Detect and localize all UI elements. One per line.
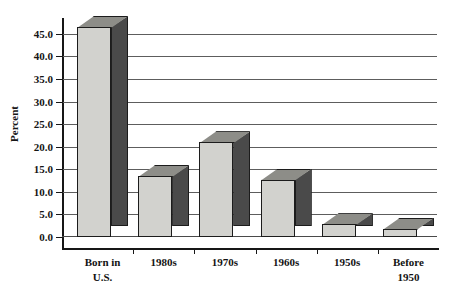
x-axis-tick: [317, 248, 318, 254]
y-axis-line: [62, 18, 64, 237]
y-axis-tick-label: 30.0: [34, 96, 53, 108]
bar: [261, 169, 312, 237]
bar-front-face: [77, 27, 111, 237]
x-axis-category-label: Born in U.S.: [72, 255, 133, 285]
bar: [199, 131, 250, 237]
bar-front-face: [138, 176, 172, 237]
y-axis-tick: [56, 192, 63, 193]
y-axis-tick-label: 0.0: [39, 231, 53, 243]
y-axis-title: Percent: [8, 84, 20, 164]
bar: [77, 16, 128, 237]
y-axis-tick-label: 35.0: [34, 73, 53, 85]
x-axis-tick: [194, 248, 195, 254]
bar: [138, 165, 189, 237]
y-axis-tick: [56, 56, 63, 57]
bar-front-face: [199, 142, 233, 237]
bar: [322, 213, 373, 237]
x-axis-category-label: 1950s: [317, 255, 378, 270]
y-axis-tick: [56, 124, 63, 125]
y-axis-tick-label: 10.0: [34, 186, 53, 198]
x-axis-line: [62, 248, 439, 250]
y-axis-tick-label: 45.0: [34, 28, 53, 40]
y-axis-tick: [56, 34, 63, 35]
y-axis-tick: [56, 79, 63, 80]
bar-front-face: [261, 180, 295, 237]
x-axis-tick: [133, 248, 134, 254]
x-axis-category-label: Before 1950: [378, 255, 439, 285]
x-axis-category-label: 1960s: [256, 255, 317, 270]
y-axis-tick: [56, 214, 63, 215]
bar: [383, 218, 434, 237]
x-axis-category-label: 1970s: [194, 255, 255, 270]
bar-side-face: [111, 16, 128, 226]
y-axis-tick: [56, 102, 63, 103]
y-axis-tick: [56, 147, 63, 148]
bar-chart: Percent 0.05.010.015.020.025.030.035.040…: [0, 0, 455, 300]
x-axis-tick: [256, 248, 257, 254]
x-axis-left-cap: [62, 237, 64, 250]
y-axis-tick-label: 25.0: [34, 118, 53, 130]
y-axis-tick-label: 5.0: [39, 208, 53, 220]
x-axis-category-label: 1980s: [133, 255, 194, 270]
bar-front-face: [383, 229, 417, 237]
y-axis-tick: [56, 169, 63, 170]
x-axis-tick: [378, 248, 379, 254]
bar-side-face: [233, 131, 250, 226]
y-axis-tick-label: 40.0: [34, 50, 53, 62]
y-axis-tick-label: 15.0: [34, 163, 53, 175]
y-axis-tick-label: 20.0: [34, 141, 53, 153]
bar-front-face: [322, 224, 356, 237]
